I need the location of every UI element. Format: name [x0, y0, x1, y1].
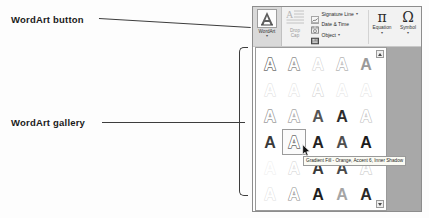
svg-text:A: A	[336, 82, 348, 99]
wordart-letter-a-icon: A	[357, 81, 375, 99]
svg-text:A: A	[336, 56, 348, 73]
object-command[interactable]: Object ▾	[311, 31, 368, 39]
wordart-style-cell[interactable]: A	[282, 51, 306, 77]
wordart-style-cell[interactable]: A	[258, 155, 282, 181]
wordart-letter-a-icon: A	[333, 55, 351, 73]
wordart-letter-a-icon: A	[333, 133, 351, 151]
signature-line-dropdown-caret-icon[interactable]: ▾	[356, 10, 358, 18]
wordart-letter-a-icon: A	[261, 81, 279, 99]
callout-leader-line-wordart-button	[99, 18, 251, 28]
wordart-letter-a-icon: A	[261, 133, 279, 151]
wordart-style-cell[interactable]: A	[330, 129, 354, 155]
date-and-time-command[interactable]: Date & Time	[311, 20, 368, 28]
wordart-style-grid: AAAAAAAAAAAAAAAAAAAAAAAAAAAAAA	[258, 51, 378, 208]
wordart-letter-a-icon: A	[309, 81, 327, 99]
wordart-style-cell[interactable]: A	[330, 181, 354, 207]
svg-text:A: A	[360, 82, 372, 99]
svg-text:A: A	[336, 186, 348, 203]
wordart-letter-a-icon: A	[309, 185, 327, 203]
wordart-letter-a-icon: A	[285, 159, 303, 177]
svg-text:A: A	[264, 160, 276, 177]
wordart-letter-a-icon: A	[333, 81, 351, 99]
drop-cap-icon: A	[286, 9, 305, 27]
wordart-style-cell[interactable]: A	[354, 181, 378, 207]
wordart-style-cell[interactable]: A	[282, 103, 306, 129]
wordart-letter-a-icon: A	[333, 107, 351, 125]
wordart-style-cell[interactable]: A	[306, 51, 330, 77]
symbol-button[interactable]: Ω Symbol ▾	[395, 10, 421, 46]
scroll-down-arrow-glyph	[378, 203, 382, 206]
svg-text:A: A	[264, 82, 276, 99]
svg-text:A: A	[336, 134, 348, 151]
signature-line-command[interactable]: Signature Line ▾	[311, 10, 368, 18]
svg-text:A: A	[288, 82, 300, 99]
omega-icon: Ω	[402, 10, 414, 25]
wordart-letter-a-icon: A	[285, 81, 303, 99]
wordart-letter-a-icon: A	[285, 107, 303, 125]
wordart-style-cell[interactable]: A	[330, 51, 354, 77]
svg-text:A: A	[288, 134, 300, 151]
wordart-style-cell[interactable]: A	[306, 103, 330, 129]
wordart-style-cell[interactable]: A	[330, 77, 354, 103]
svg-text:A: A	[288, 160, 300, 177]
wordart-dropdown-caret-icon[interactable]: ▾	[266, 34, 268, 38]
mouse-pointer-icon	[302, 143, 311, 161]
wordart-style-cell[interactable]: A	[258, 181, 282, 207]
svg-text:A: A	[312, 108, 324, 125]
svg-text:A: A	[288, 186, 300, 203]
screenshot-panel: WordArt ▾ A	[252, 6, 422, 212]
svg-text:A: A	[360, 108, 372, 125]
wordart-letter-a-icon: A	[285, 133, 303, 151]
text-commands-list: Signature Line ▾ Date & Time	[308, 7, 368, 46]
wordart-style-cell[interactable]: A	[306, 77, 330, 103]
svg-text:A: A	[312, 56, 324, 73]
wordart-a-icon	[257, 9, 277, 28]
callout-label-wordart-gallery: WordArt gallery	[11, 117, 85, 128]
wordart-style-cell[interactable]: A	[306, 181, 330, 207]
svg-text:A: A	[336, 108, 348, 125]
drop-cap-button[interactable]: A Drop Cap	[282, 7, 308, 46]
symbol-dropdown-caret-icon[interactable]: ▾	[407, 31, 409, 35]
wordart-letter-a-icon: A	[309, 107, 327, 125]
wordart-letter-a-icon: A	[261, 185, 279, 203]
svg-text:A: A	[288, 108, 300, 125]
object-icon	[311, 31, 319, 39]
wordart-letter-a-icon: A	[285, 185, 303, 203]
svg-text:A: A	[360, 56, 372, 73]
scroll-up-arrow-icon[interactable]	[376, 50, 384, 58]
object-dropdown-caret-icon[interactable]: ▾	[338, 31, 340, 39]
symbols-group: π Equation ▾ Ω Symbol ▾	[369, 7, 421, 46]
equation-button[interactable]: π Equation ▾	[369, 10, 395, 46]
svg-text:A: A	[286, 9, 294, 20]
wordart-style-cell[interactable]: A	[258, 51, 282, 77]
wordart-style-cell[interactable]: A	[258, 103, 282, 129]
wordart-style-cell[interactable]: A	[282, 77, 306, 103]
svg-text:A: A	[360, 134, 372, 151]
wordart-style-cell[interactable]: A	[354, 77, 378, 103]
wordart-letter-a-icon: A	[357, 55, 375, 73]
wordart-letter-a-icon: A	[309, 55, 327, 73]
wordart-style-cell[interactable]: A	[354, 103, 378, 129]
equation-dropdown-caret-icon[interactable]: ▾	[381, 31, 383, 35]
date-and-time-label: Date & Time	[322, 20, 350, 28]
wordart-letter-a-icon: A	[261, 107, 279, 125]
wordart-style-cell[interactable]: A	[354, 129, 378, 155]
wordart-style-cell[interactable]: A	[282, 181, 306, 207]
wordart-style-cell[interactable]: A	[354, 51, 378, 77]
pi-icon: π	[377, 10, 386, 25]
svg-text:A: A	[312, 82, 324, 99]
scroll-down-arrow-icon[interactable]	[376, 200, 384, 208]
object-label: Object	[322, 31, 336, 39]
svg-text:A: A	[288, 56, 300, 73]
svg-text:A: A	[312, 134, 324, 151]
svg-text:A: A	[264, 134, 276, 151]
date-time-icon	[311, 20, 319, 28]
wordart-style-cell[interactable]: A	[258, 129, 282, 155]
scroll-up-arrow-glyph	[378, 53, 382, 56]
svg-text:A: A	[264, 186, 276, 203]
wordart-button[interactable]: WordArt ▾	[253, 7, 282, 46]
wordart-style-cell[interactable]: A	[258, 77, 282, 103]
wordart-style-cell[interactable]: A	[330, 103, 354, 129]
wordart-gallery-dropdown[interactable]: AAAAAAAAAAAAAAAAAAAAAAAAAAAAAA Gradient …	[255, 47, 387, 211]
wordart-letter-a-icon: A	[357, 133, 375, 151]
